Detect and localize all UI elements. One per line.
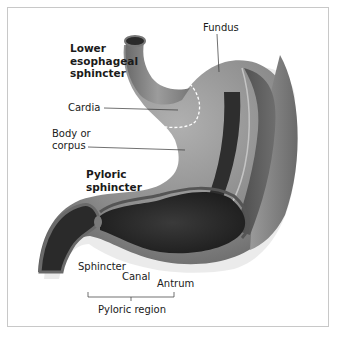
label-lower-esophageal-sphincter: Lower esophageal sphincter: [70, 42, 138, 80]
body-leader: [88, 147, 185, 150]
pyloric-sphincter-ring: [94, 216, 102, 228]
label-pyloric-sphincter: Pyloric sphincter: [86, 168, 142, 193]
label-cardia: Cardia: [68, 102, 100, 114]
label-pyloric-region: Pyloric region: [98, 304, 166, 316]
label-canal: Canal: [122, 271, 150, 283]
label-body-or-corpus: Body or corpus: [52, 128, 91, 152]
label-antrum: Antrum: [157, 278, 194, 290]
pyloric-region-bracket: [88, 292, 174, 301]
label-sphincter: Sphincter: [78, 261, 126, 273]
label-fundus: Fundus: [203, 22, 239, 34]
